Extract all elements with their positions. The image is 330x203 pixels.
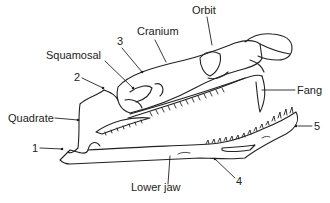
label-quadrate: Quadrate — [8, 113, 54, 124]
quadrate-bone — [68, 90, 104, 153]
label-num-5: 5 — [314, 121, 320, 132]
label-cranium: Cranium — [137, 26, 179, 37]
snake-skull-diagram: Cranium Orbit 3 Squamosal 2 Quadrate 1 F… — [0, 0, 330, 203]
label-num-4: 4 — [236, 176, 242, 187]
snout-outline — [245, 34, 292, 60]
label-lower-jaw: Lower jaw — [131, 182, 181, 193]
label-squamosal: Squamosal — [46, 50, 101, 61]
label-orbit: Orbit — [192, 5, 216, 16]
label-num-1: 1 — [32, 143, 38, 154]
maxilla — [128, 75, 262, 118]
label-num-2: 2 — [74, 72, 80, 83]
cranium-outline — [117, 40, 262, 113]
label-fang: Fang — [297, 85, 322, 96]
fang-shape — [256, 76, 265, 112]
lower-teeth — [206, 107, 293, 144]
orbit-outline — [200, 52, 221, 76]
label-num-3: 3 — [117, 36, 123, 47]
